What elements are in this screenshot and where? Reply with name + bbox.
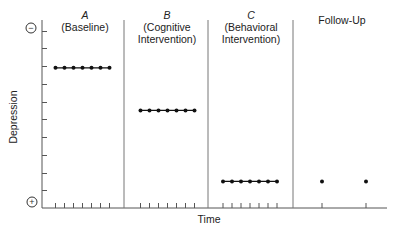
data-point — [157, 108, 161, 112]
data-point — [90, 66, 94, 70]
phase-followup-name: Follow-Up — [295, 14, 389, 26]
series-4 — [320, 179, 368, 183]
minus-symbol-icon: − — [26, 23, 37, 34]
phase-a-title: A (Baseline) — [48, 9, 122, 33]
data-point — [266, 179, 270, 183]
series-3 — [221, 179, 279, 183]
phase-c-letter: C — [209, 9, 293, 21]
phase-c-title: C (Behavioral Intervention) — [209, 9, 293, 45]
data-point — [230, 179, 234, 183]
phase-a-name: (Baseline) — [48, 21, 122, 33]
series-1 — [54, 66, 112, 70]
data-point — [81, 66, 85, 70]
phase-b-title: B (Cognitive Intervention) — [126, 9, 208, 45]
data-point — [221, 179, 225, 183]
x-axis-label: Time — [198, 213, 221, 225]
phase-b-name-line1: (Cognitive — [126, 21, 208, 33]
data-point — [108, 66, 112, 70]
plus-symbol-icon: + — [27, 197, 38, 208]
data-point — [139, 108, 143, 112]
data-point — [63, 66, 67, 70]
data-point — [248, 179, 252, 183]
y-axis-ticks — [42, 32, 47, 191]
data-point — [148, 108, 152, 112]
data-point — [320, 179, 324, 183]
phase-c-name-line1: (Behavioral — [209, 21, 293, 33]
phase-a-letter: A — [48, 9, 122, 21]
phase-b-name-line2: Intervention) — [126, 33, 208, 45]
phase-b-letter: B — [126, 9, 208, 21]
data-point — [166, 108, 170, 112]
phase-followup-title: Follow-Up — [295, 14, 389, 26]
data-series — [54, 66, 369, 184]
data-point — [275, 179, 279, 183]
series-2 — [139, 108, 197, 112]
data-point — [175, 108, 179, 112]
data-point — [364, 179, 368, 183]
data-point — [239, 179, 243, 183]
data-point — [193, 108, 197, 112]
phase-c-name-line2: Intervention) — [209, 33, 293, 45]
x-axis-ticks — [56, 203, 367, 208]
data-point — [257, 179, 261, 183]
data-point — [72, 66, 76, 70]
axes — [42, 20, 387, 208]
data-point — [99, 66, 103, 70]
data-point — [54, 66, 58, 70]
y-axis-label: Depression — [7, 90, 19, 143]
data-point — [184, 108, 188, 112]
